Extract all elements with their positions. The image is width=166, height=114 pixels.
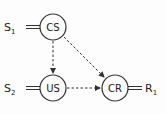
conditioning-diagram: S1 S2 R1 CS US CR	[0, 0, 166, 114]
node-cr: CR	[102, 75, 128, 101]
node-cs: CS	[40, 14, 66, 40]
s2-label: S2	[4, 82, 15, 97]
s2-input: S2	[4, 82, 40, 97]
edge-cs-to-cr	[64, 37, 104, 77]
s1-label: S1	[4, 21, 15, 36]
node-cs-label: CS	[46, 22, 59, 33]
node-cr-label: CR	[108, 83, 122, 94]
r1-output: R1	[128, 82, 157, 97]
diagram-canvas: S1 S2 R1 CS US CR	[0, 0, 166, 114]
node-us: US	[40, 75, 66, 101]
s1-input: S1	[4, 21, 40, 36]
r1-label: R1	[145, 82, 157, 97]
node-us-label: US	[46, 83, 60, 94]
